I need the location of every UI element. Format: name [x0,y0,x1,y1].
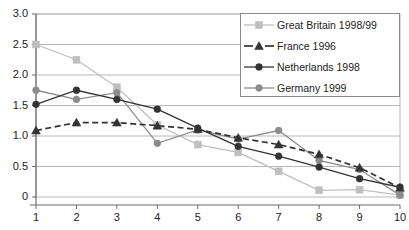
data-point-square [235,149,242,156]
data-point-circle [316,164,323,171]
data-point-circle [194,125,201,132]
x-tick-label: 3 [106,211,128,223]
legend-item-germany: Germany 1999 [241,77,399,98]
series-france-1996 [32,118,405,191]
data-point-circle [235,143,242,150]
data-point-circle [73,96,80,103]
data-point-circle [397,184,404,191]
data-point-circle [33,101,40,108]
data-point-circle [113,89,120,96]
y-tick-label: 1.5 [2,99,28,111]
legend-label: Great Britain 1998/99 [277,19,377,31]
data-point-square [73,56,80,63]
data-point-square [356,186,363,193]
series-netherlands-1998 [33,87,404,191]
x-tick-label: 5 [187,211,209,223]
y-tick-label: 2.0 [2,68,28,80]
x-tick-label: 6 [227,211,249,223]
series-germany-1999 [33,87,404,199]
x-tick-label: 1 [25,211,47,223]
x-tick-label: 7 [268,211,290,223]
x-tick-label: 8 [308,211,330,223]
y-tick-label: 1.0 [2,129,28,141]
data-point-square [256,21,263,28]
data-point-circle [275,153,282,160]
legend-label: Netherlands 1998 [277,61,360,73]
y-tick-label: 2.5 [2,38,28,50]
legend-marker-square-icon [241,15,277,35]
data-point-circle [73,87,80,94]
data-point-triangle [72,118,81,126]
x-tick-label: 2 [65,211,87,223]
line-chart: 3.02.52.01.51.00.50 12345678910 Great Br… [0,0,409,230]
data-point-circle [256,84,263,91]
data-point-circle [397,192,404,199]
data-point-triangle [255,41,264,49]
x-tick-label: 4 [146,211,168,223]
x-tick-label: 10 [389,211,409,223]
data-point-square [275,168,282,175]
legend-item-netherlands: Netherlands 1998 [241,56,399,77]
data-point-circle [256,63,263,70]
series-line [36,90,400,187]
y-tick-label: 0 [2,190,28,202]
data-point-circle [113,96,120,103]
chart-legend: Great Britain 1998/99 France 1996 Nether… [240,13,400,97]
y-tick-label: 0.5 [2,160,28,172]
data-point-square [33,41,40,48]
data-point-circle [275,127,282,134]
legend-label: Germany 1999 [277,82,346,94]
series-line [36,123,400,188]
data-point-square [316,187,323,194]
legend-marker-triangle-icon [241,36,277,56]
legend-item-france: France 1996 [241,35,399,56]
data-point-circle [154,106,161,113]
data-point-circle [33,87,40,94]
legend-marker-circle-icon [241,57,277,77]
data-point-circle [356,175,363,182]
legend-label: France 1996 [277,40,336,52]
data-point-triangle [315,150,324,158]
data-point-square [194,141,201,148]
x-tick-label: 9 [349,211,371,223]
y-tick-label: 3.0 [2,7,28,19]
legend-item-great-britain: Great Britain 1998/99 [241,14,399,35]
legend-marker-circle-icon [241,78,277,98]
data-point-circle [154,140,161,147]
